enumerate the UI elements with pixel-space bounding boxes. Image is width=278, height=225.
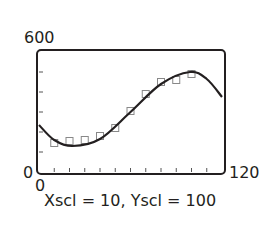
data-point-square (81, 137, 88, 144)
plot-area (0, 0, 278, 225)
axis-ticks (39, 72, 207, 172)
regression-curve (39, 72, 222, 146)
data-point-square (66, 138, 73, 145)
data-points (51, 71, 195, 147)
